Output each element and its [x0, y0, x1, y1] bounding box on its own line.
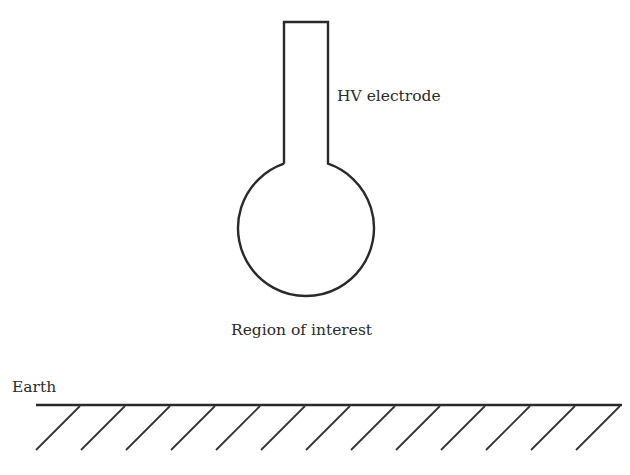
earth-hatch-stroke [351, 406, 395, 450]
region-of-interest-label: Region of interest [231, 323, 372, 339]
earth-hatch-stroke [576, 406, 620, 450]
earth-hatch-stroke [81, 406, 125, 450]
earth-hatch-stroke [171, 406, 215, 450]
earth-hatch-stroke [441, 406, 485, 450]
hv-electrode-diagram [0, 0, 630, 475]
earth-label: Earth [12, 380, 56, 396]
earth-hatch-stroke [36, 406, 80, 450]
hv-electrode-label: HV electrode [337, 89, 441, 105]
earth-hatch-stroke [486, 406, 530, 450]
earth-hatch-stroke [126, 406, 170, 450]
earth-hatch-stroke [396, 406, 440, 450]
earth-hatch-stroke [306, 406, 350, 450]
earth-hatch-stroke [216, 406, 260, 450]
hv-electrode-shape [238, 22, 374, 296]
earth-hatch-stroke [531, 406, 575, 450]
earth-hatch-stroke [261, 406, 305, 450]
earth-hatching [36, 406, 620, 450]
